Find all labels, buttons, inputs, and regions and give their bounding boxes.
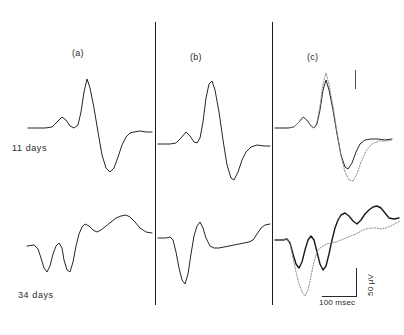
panel-label-a: (a) — [72, 48, 84, 58]
trace-a-11days — [28, 79, 152, 172]
trace-c-34days-dotted — [275, 221, 400, 296]
calibration-label-amplitude: 50 µV — [366, 274, 375, 296]
trace-b-11days — [158, 81, 270, 180]
trace-b-34days — [158, 222, 270, 284]
row-label-34-days: 34 days — [18, 290, 54, 300]
trace-c-34days-solid — [275, 206, 399, 270]
calibration-bar-vertical — [356, 268, 357, 296]
panel-divider-1 — [155, 22, 156, 305]
calibration-label-time: 100 msec — [319, 298, 355, 307]
panel-divider-2 — [272, 22, 273, 305]
trace-c-11days-dotted — [275, 73, 392, 181]
figure-container: (a) (b) (c) 11 days 34 days 50 µV 100 ms… — [0, 0, 404, 335]
waveform-traces — [0, 0, 404, 335]
trace-a-34days — [27, 215, 152, 272]
calibration-bar-horizontal — [322, 296, 357, 297]
trace-c-11days-solid — [275, 80, 392, 169]
panel-label-b: (b) — [190, 52, 202, 62]
amplitude-calibration-tick — [355, 70, 356, 89]
row-label-11-days: 11 days — [12, 143, 47, 153]
panel-label-c: (c) — [307, 52, 318, 62]
